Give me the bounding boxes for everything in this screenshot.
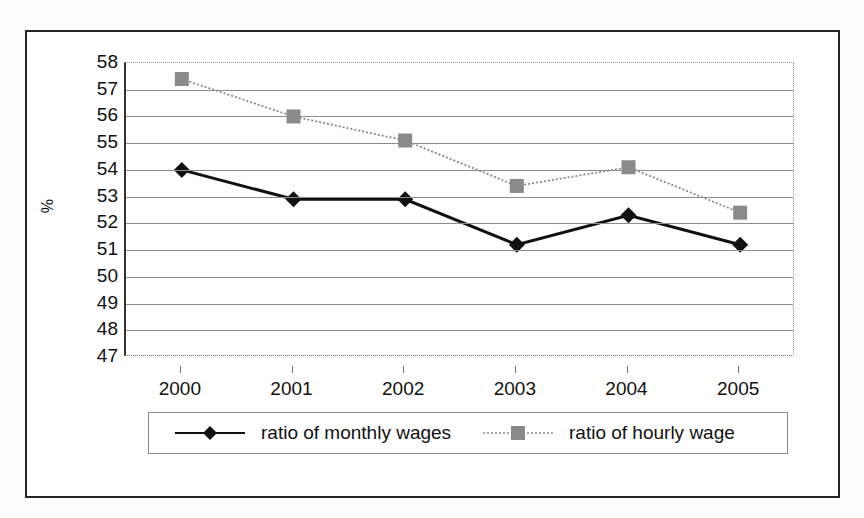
y-tick-label: 47 [72,346,118,365]
x-tick-mark [292,366,293,373]
series-line [182,170,740,245]
y-tick-label: 57 [72,79,118,98]
x-tick-mark [515,366,516,373]
y-tick-label: 51 [72,239,118,258]
x-tick-label: 2004 [587,378,667,400]
x-tick-label: 2005 [698,378,778,400]
square-marker [398,134,412,148]
legend-sample-diamond-marker [171,423,249,443]
gridline [126,197,793,198]
diamond-marker [286,191,302,207]
y-tick-label: 58 [72,52,118,71]
gridline [126,304,793,305]
legend-item-hourly-wage: ratio of hourly wage [479,413,735,453]
legend-label-hourly-wage: ratio of hourly wage [569,422,735,444]
gridline [126,330,793,331]
y-tick-label: 55 [72,132,118,151]
gridline [126,116,793,117]
y-tick-label: 48 [72,319,118,338]
x-axis-tick-labels: 200020012002200320042005 [124,366,794,394]
diamond-marker [621,207,637,223]
x-tick-mark [180,366,181,373]
x-tick-label: 2000 [140,378,220,400]
x-tick-mark [738,366,739,373]
square-marker [175,72,189,86]
gridline [126,90,793,91]
plot-area [124,62,794,356]
diamond-marker [397,191,413,207]
gridline [126,277,793,278]
y-tick-label: 54 [72,159,118,178]
chart-legend: ratio of monthly wages ratio of hourly w… [148,412,788,454]
gridline [126,143,793,144]
x-tick-label: 2001 [252,378,332,400]
x-tick-label: 2003 [475,378,555,400]
legend-label-monthly-wages: ratio of monthly wages [261,422,451,444]
gridline [126,223,793,224]
square-marker [733,206,747,220]
x-tick-mark [403,366,404,373]
y-tick-label: 50 [72,266,118,285]
chart-figure: % 585756555453525150494847 2000200120022… [0,0,864,518]
square-marker [510,179,524,193]
y-axis-tick-labels: 585756555453525150494847 [62,0,118,518]
y-tick-label: 53 [72,186,118,205]
series-monthly-wages [174,162,748,253]
legend-item-monthly-wages: ratio of monthly wages [171,413,451,453]
y-tick-label: 49 [72,293,118,312]
gridline [126,250,793,251]
gridline [126,170,793,171]
y-tick-label: 56 [72,105,118,124]
x-tick-mark [627,366,628,373]
chart-plot-svg [126,63,796,357]
legend-sample-square-marker [479,423,557,443]
square-marker [622,160,636,174]
y-tick-label: 52 [72,212,118,231]
x-tick-label: 2002 [363,378,443,400]
